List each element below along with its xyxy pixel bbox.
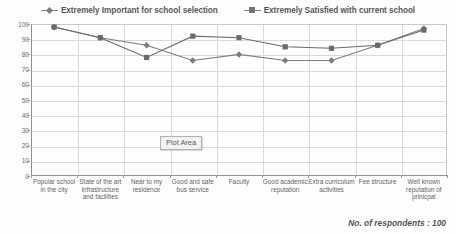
- y-tick-label: 30: [5, 127, 29, 134]
- legend-item-important[interactable]: Extremely Important for school selection: [41, 6, 218, 15]
- series-layer: [31, 24, 447, 176]
- y-tick-label: 90: [5, 36, 29, 43]
- plot-area-tooltip: Plot Area: [160, 136, 202, 150]
- y-tick-label: 70: [5, 66, 29, 73]
- x-tick-label: Fee structure: [355, 178, 401, 186]
- y-tick-label: 60: [5, 81, 29, 88]
- x-tick-label: Near to my residence: [123, 178, 169, 193]
- y-tick-label: 0: [5, 173, 29, 180]
- y-tick-mark: [27, 115, 30, 116]
- data-point-marker[interactable]: [143, 42, 150, 49]
- y-tick-mark: [27, 85, 30, 86]
- y-axis-ticks: 1009080706050403020100: [0, 0, 29, 234]
- y-tick-mark: [27, 39, 30, 40]
- y-tick-mark: [27, 100, 30, 101]
- x-tick-label: Extra curriculum activities: [308, 178, 354, 193]
- data-point-marker[interactable]: [282, 57, 289, 64]
- x-tick-label: Good and safe bus service: [170, 178, 216, 193]
- x-tick-label: Good academic reputation: [262, 178, 308, 193]
- x-tick-label: Popular school in the city: [31, 178, 77, 193]
- x-tick-label: State of the art infrastructure and faci…: [77, 178, 123, 201]
- data-point-marker[interactable]: [236, 51, 243, 58]
- y-tick-mark: [27, 54, 30, 55]
- data-point-marker[interactable]: [375, 43, 380, 48]
- legend-label-satisfied: Extremely Satisfied with current school: [264, 6, 415, 15]
- data-point-marker[interactable]: [144, 55, 149, 60]
- y-tick-label: 50: [5, 97, 29, 104]
- legend-label-important: Extremely Important for school selection: [61, 6, 218, 15]
- line-chart: Extremely Important for school selection…: [0, 0, 456, 234]
- square-marker-icon: [244, 6, 261, 15]
- y-tick-mark: [27, 146, 30, 147]
- respondents-note: No. of respondents : 100: [348, 218, 446, 228]
- data-point-marker[interactable]: [98, 35, 103, 40]
- legend-item-satisfied[interactable]: Extremely Satisfied with current school: [244, 6, 415, 15]
- data-point-marker[interactable]: [328, 57, 335, 64]
- y-tick-label: 20: [5, 142, 29, 149]
- y-tick-label: 80: [5, 51, 29, 58]
- diamond-marker-icon: [41, 6, 58, 15]
- data-point-marker[interactable]: [236, 35, 241, 40]
- data-point-marker[interactable]: [329, 46, 334, 51]
- chart-legend: Extremely Important for school selection…: [0, 2, 456, 18]
- y-tick-mark: [27, 161, 30, 162]
- data-point-marker[interactable]: [283, 44, 288, 49]
- x-tick-label: Faculty: [216, 178, 262, 186]
- y-tick-mark: [27, 176, 30, 177]
- data-point-marker[interactable]: [421, 27, 426, 32]
- data-point-marker[interactable]: [190, 34, 195, 39]
- y-tick-label: 40: [5, 112, 29, 119]
- x-tick-label: Well known reputation of prinicpal: [401, 178, 447, 201]
- y-tick-mark: [27, 130, 30, 131]
- y-tick-mark: [27, 70, 30, 71]
- y-tick-label: 10: [5, 157, 29, 164]
- y-tick-label: 100: [5, 21, 29, 28]
- data-point-marker[interactable]: [52, 24, 57, 29]
- y-tick-mark: [27, 24, 30, 25]
- data-point-marker[interactable]: [190, 57, 197, 64]
- x-tick-mark: [447, 175, 448, 178]
